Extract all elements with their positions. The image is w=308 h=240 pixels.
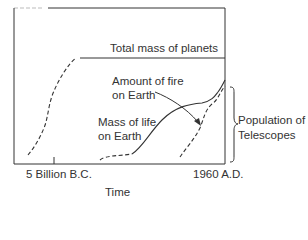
planets-curve-dashed: [28, 58, 76, 155]
fire-arrow-line: [155, 92, 198, 122]
life-label-line2: on Earth: [98, 129, 141, 143]
fire-curve: [180, 86, 225, 157]
x-tick-label-1960ad: 1960 A.D.: [193, 167, 244, 181]
fire-label-line2: on Earth: [112, 88, 155, 102]
x-tick-label-5bbc: 5 Billion B.C.: [26, 167, 92, 181]
planets-label: Total mass of planets: [110, 41, 218, 55]
life-curve-dashed: [100, 154, 132, 160]
bracket-icon: [230, 87, 238, 162]
life-label-line1: Mass of life: [98, 115, 156, 129]
x-axis-label: Time: [105, 185, 130, 199]
bracket-label-line2: Telescopes: [238, 128, 296, 142]
fire-label-line1: Amount of fire: [112, 74, 184, 88]
bracket-label-line1: Population of: [238, 113, 305, 127]
